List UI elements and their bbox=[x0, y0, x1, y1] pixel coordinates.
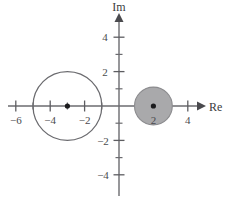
imaginary-axis-group bbox=[115, 13, 124, 196]
left-circle-center-dot bbox=[65, 103, 70, 108]
imaginary-tick-label-4: 4 bbox=[102, 31, 108, 43]
imaginary-axis-arrowhead bbox=[115, 13, 124, 22]
real-tick-label-4: 4 bbox=[185, 114, 191, 126]
complex-plane-figure: −6 −4 −2 2 4 4 2 −2 −4 Re Im bbox=[0, 0, 229, 198]
right-disk-center-dot bbox=[151, 103, 156, 108]
imaginary-tick-label--2: −2 bbox=[97, 135, 109, 147]
real-axis-label: Re bbox=[209, 100, 222, 114]
imaginary-axis-label: Im bbox=[112, 0, 126, 14]
real-tick-label-2: 2 bbox=[151, 114, 157, 126]
real-tick-label--2: −2 bbox=[79, 114, 91, 126]
real-tick-label--6: −6 bbox=[10, 114, 22, 126]
complex-plane-svg: −6 −4 −2 2 4 4 2 −2 −4 Re Im bbox=[0, 0, 229, 198]
real-axis-group bbox=[8, 102, 206, 111]
real-axis-arrowhead bbox=[197, 102, 206, 111]
imaginary-tick-label--4: −4 bbox=[97, 169, 109, 181]
real-tick-label--4: −4 bbox=[44, 114, 56, 126]
imaginary-tick-label-2: 2 bbox=[102, 66, 108, 78]
